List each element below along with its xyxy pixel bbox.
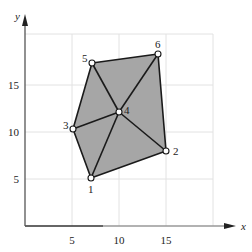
x-tick-5: 5 <box>69 234 75 246</box>
x-axis-label: x <box>240 220 246 232</box>
node-label-3: 3 <box>63 119 69 131</box>
triangulation-diagram: x y 5 10 15 5 10 15 1 2 3 4 5 6 <box>0 0 252 252</box>
x-axis-arrow-icon <box>224 223 236 229</box>
node-4 <box>116 109 122 115</box>
node-label-6: 6 <box>155 38 161 50</box>
mesh-region <box>73 54 166 178</box>
x-tick-15: 15 <box>161 234 173 246</box>
node-2 <box>163 148 169 154</box>
y-tick-10: 10 <box>8 126 20 138</box>
node-label-1: 1 <box>88 183 94 195</box>
y-axis-label: y <box>14 10 20 22</box>
node-label-4: 4 <box>124 104 130 116</box>
node-label-2: 2 <box>173 145 179 157</box>
y-axis-arrow-icon <box>22 14 28 26</box>
node-label-5: 5 <box>82 52 88 64</box>
y-tick-15: 15 <box>8 79 20 91</box>
node-1 <box>88 175 94 181</box>
x-tick-10: 10 <box>114 234 126 246</box>
node-3 <box>70 126 76 132</box>
y-tick-5: 5 <box>14 173 20 185</box>
node-6 <box>155 51 161 57</box>
node-5 <box>89 60 95 66</box>
